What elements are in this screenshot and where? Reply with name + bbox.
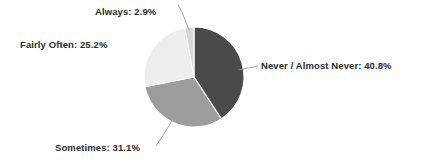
leader-line-sometimes <box>156 121 172 146</box>
leader-line-always <box>178 5 189 30</box>
pie-slices <box>144 27 244 127</box>
pie-label-sometimes: Sometimes: 31.1% <box>55 142 140 154</box>
pie-chart-graphic <box>0 0 428 163</box>
pie-chart-figure: Always: 2.9% Fairly Often: 25.2% Never /… <box>0 0 428 163</box>
pie-label-always: Always: 2.9% <box>95 6 156 18</box>
pie-label-never-almost-never: Never / Almost Never: 40.8% <box>261 60 392 72</box>
pie-label-fairly-often: Fairly Often: 25.2% <box>20 39 107 51</box>
